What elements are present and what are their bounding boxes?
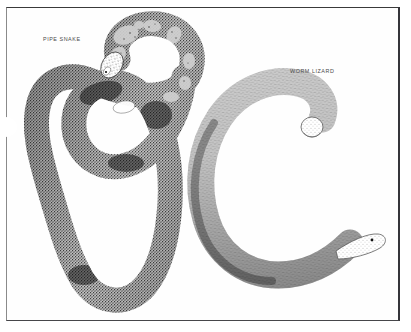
plate-frame — [6, 7, 400, 321]
illustration-plate: PIPE SNAKE WORM LIZARD — [0, 0, 411, 332]
label-worm-lizard: WORM LIZARD — [290, 68, 334, 74]
label-pipe-snake: PIPE SNAKE — [43, 36, 81, 42]
